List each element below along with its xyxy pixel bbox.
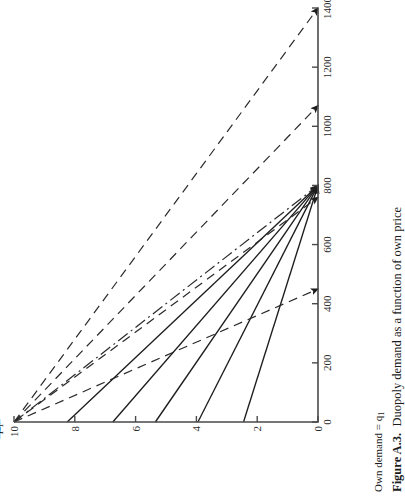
- curve-p2-4: [155, 185, 318, 422]
- x-tick-label: 400: [321, 295, 333, 312]
- y-tick-label: 8: [69, 426, 81, 432]
- curve-label-p2-p1: p2 = p1: [0, 423, 5, 440]
- figure-caption: Figure A.3. Duopoly demand as a function…: [390, 207, 405, 492]
- axis-tick-labels-layer: 02004006008001000120014000246810: [8, 0, 333, 437]
- curve-q2-800: [14, 197, 318, 422]
- x-tick-label: 200: [321, 354, 333, 371]
- y-tick-label: 2: [251, 426, 263, 432]
- curve-p2-p1: [14, 185, 318, 422]
- y-tick-label: 6: [130, 426, 142, 432]
- x-tick-label: 600: [321, 236, 333, 253]
- curve-labels-layer: p2 = 0p2 = 2p2 = 4p2 = 6p2=8q2 = 0q2 = 4…: [0, 416, 5, 440]
- x-axis-title-text: Own demand = q: [372, 416, 384, 492]
- x-tick-label: 1200: [321, 56, 333, 79]
- figure-number: Figure A.3.: [390, 433, 404, 492]
- y-tick-label: 4: [190, 426, 202, 432]
- y-tick-label: 10: [8, 426, 20, 438]
- x-axis-title-subscript: 1: [377, 412, 386, 416]
- chart-svg: 02004006008001000120014000246810 p2 = 0p…: [0, 0, 345, 440]
- x-tick-label: 800: [321, 177, 333, 194]
- curves-layer: [14, 8, 318, 422]
- plot-area: 02004006008001000120014000246810 p2 = 0p…: [0, 0, 345, 440]
- y-tick-label: 0: [312, 426, 324, 432]
- x-tick-label: 1400: [321, 0, 333, 19]
- x-tick-label: 0: [321, 419, 333, 425]
- x-axis-title: Own demand = q1: [372, 412, 386, 492]
- figure-caption-text: Duopoly demand as a function of own pric…: [390, 207, 404, 427]
- curve-q2-400: [14, 106, 318, 422]
- curve-q2-1200: [14, 289, 318, 422]
- x-tick-label: 1000: [321, 115, 333, 138]
